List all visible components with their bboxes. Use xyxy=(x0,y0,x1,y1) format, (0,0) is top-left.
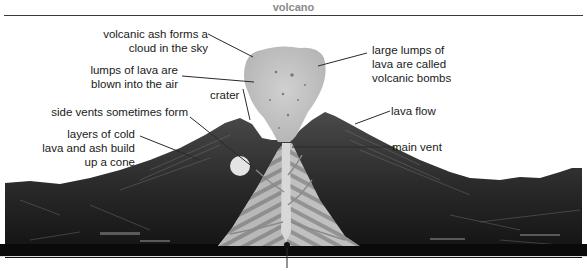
label-crater: crater xyxy=(210,88,239,102)
label-volcanic-bombs: large lumps of lava are called volcanic … xyxy=(372,43,451,85)
label-line: lava are called xyxy=(372,57,451,71)
label-line: lava and ash build xyxy=(30,141,135,155)
label-line: volcanic ash forms a xyxy=(100,27,208,41)
label-line: volcanic bombs xyxy=(372,71,451,85)
label-line: cloud in the sky xyxy=(100,41,208,55)
label-line: up a cone xyxy=(30,155,135,169)
label-line: layers of cold xyxy=(30,127,135,141)
label-line: large lumps of xyxy=(372,43,451,57)
label-lava-lumps: lumps of lava are blown into the air xyxy=(78,63,178,91)
label-ash-cloud: volcanic ash forms a cloud in the sky xyxy=(100,27,208,55)
label-line: lumps of lava are xyxy=(78,63,178,77)
label-line: blown into the air xyxy=(78,77,178,91)
label-side-vents: side vents sometimes form xyxy=(35,105,188,119)
label-main-vent: main vent xyxy=(392,140,442,154)
volcano-illustration: volcanic ash forms a cloud in the sky lu… xyxy=(0,0,587,271)
label-lava-flow: lava flow xyxy=(391,104,436,118)
label-cone-layers: layers of cold lava and ash build up a c… xyxy=(30,127,135,169)
